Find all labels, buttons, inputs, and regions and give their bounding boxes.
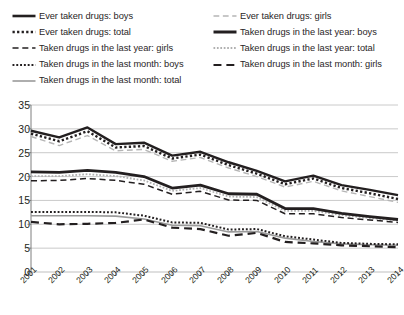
legend-item-year_total: Taken drugs in the last year: total — [213, 40, 403, 56]
legend-label: Ever taken drugs: girls — [240, 11, 331, 22]
legend-item-year_boys: Taken drugs in the last year: boys — [213, 24, 403, 40]
legend-label: Taken drugs in the last month: total — [39, 75, 181, 86]
legend-line-swatch-month_boys — [12, 59, 36, 71]
legend-label: Ever taken drugs: boys — [39, 11, 133, 22]
legend-line-swatch-month_total — [12, 75, 36, 87]
drug-use-trend-chart: Ever taken drugs: boysEver taken drugs: … — [0, 0, 404, 315]
legend-line-swatch-year_girls — [12, 42, 36, 54]
legend-item-month_girls: Taken drugs in the last month: girls — [213, 57, 403, 73]
legend-line-swatch-ever_boys — [12, 10, 36, 22]
series-line-ever_boys — [31, 127, 398, 195]
x-axis-labels: 2001200220032004200520062007200820092010… — [0, 272, 404, 315]
legend-column-left: Ever taken drugs: boysEver taken drugs: … — [12, 8, 217, 89]
series-line-ever_girls — [31, 136, 398, 203]
legend-item-ever_total: Ever taken drugs: total — [12, 24, 217, 40]
legend-line-swatch-ever_girls — [213, 10, 237, 22]
series-line-month_girls — [31, 220, 398, 248]
legend-column-right: Ever taken drugs: girlsTaken drugs in th… — [213, 8, 403, 73]
legend-item-month_total: Taken drugs in the last month: total — [12, 73, 217, 89]
legend-item-year_girls: Taken drugs in the last year: girls — [12, 40, 217, 56]
legend-line-swatch-year_boys — [213, 26, 237, 38]
legend-line-swatch-ever_total — [12, 26, 36, 38]
chart-legend: Ever taken drugs: boysEver taken drugs: … — [0, 0, 404, 97]
legend-item-month_boys: Taken drugs in the last month: boys — [12, 57, 217, 73]
legend-label: Taken drugs in the last year: girls — [39, 43, 173, 54]
legend-label: Ever taken drugs: total — [39, 27, 131, 38]
plot-area: 05101520253035 2001200220032004200520062… — [0, 96, 404, 315]
legend-label: Taken drugs in the last month: girls — [240, 59, 382, 70]
legend-item-ever_boys: Ever taken drugs: boys — [12, 8, 217, 24]
legend-label: Taken drugs in the last month: boys — [39, 59, 184, 70]
legend-item-ever_girls: Ever taken drugs: girls — [213, 8, 403, 24]
legend-line-swatch-year_total — [213, 42, 237, 54]
legend-label: Taken drugs in the last year: boys — [240, 27, 377, 38]
legend-label: Taken drugs in the last year: total — [240, 43, 375, 54]
series-line-month_total — [31, 216, 398, 246]
legend-line-swatch-month_girls — [213, 59, 237, 71]
